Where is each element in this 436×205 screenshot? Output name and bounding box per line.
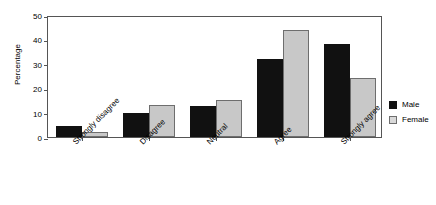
legend-swatch-male — [389, 101, 397, 109]
bar-group — [115, 17, 182, 137]
bar-male — [257, 59, 283, 137]
x-axis-labels: Strongly disagreeDisagreeNeutralAgreeStr… — [47, 140, 382, 204]
legend-item: Male — [389, 101, 429, 109]
bar-group — [48, 17, 115, 137]
y-axis-title: Percentage — [13, 30, 22, 100]
y-tick-label: 50 — [33, 12, 42, 21]
chart-figure: (g) Social media, n = 94 (35 male, 59 fe… — [0, 0, 436, 205]
legend-label: Female — [402, 116, 429, 124]
bar-group — [249, 17, 316, 137]
bar-group — [182, 17, 249, 137]
y-tick-label: 30 — [33, 61, 42, 70]
y-tick-label: 40 — [33, 36, 42, 45]
legend-item: Female — [389, 116, 429, 124]
y-tick-label: 20 — [33, 85, 42, 94]
chart-legend: MaleFemale — [389, 101, 429, 131]
legend-swatch-female — [389, 116, 397, 124]
y-tick-label: 10 — [33, 110, 42, 119]
y-tick-label: 0 — [38, 134, 42, 143]
bar-male — [324, 44, 350, 137]
bar-group — [316, 17, 383, 137]
bar-female — [283, 30, 309, 137]
legend-label: Male — [402, 101, 419, 109]
